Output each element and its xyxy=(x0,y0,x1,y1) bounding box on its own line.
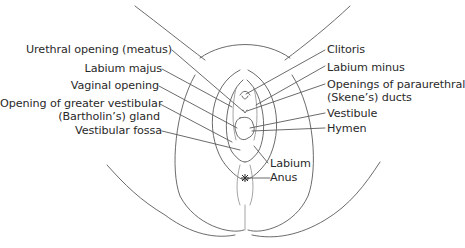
clitoral-hood xyxy=(240,91,250,95)
label-paraurethral-ducts-line1: Openings of paraurethral xyxy=(327,79,465,91)
mons-arc xyxy=(200,45,290,59)
label-labium: Labium xyxy=(270,158,311,170)
label-anus: Anus xyxy=(270,172,297,184)
label-labium-majus: Labium majus xyxy=(4,63,162,75)
label-greater-vestibular-gland-line2: (Bartholin’s) gland xyxy=(0,111,160,123)
anatomy-diagram: Urethral opening (meatus) Labium majus V… xyxy=(0,0,465,248)
diagram-drawing xyxy=(0,0,465,248)
label-hymen: Hymen xyxy=(327,123,366,135)
vaginal-opening-shape xyxy=(235,117,254,139)
label-urethral-opening: Urethral opening (meatus) xyxy=(4,44,172,56)
label-greater-vestibular-gland-line1: Opening of greater vestibular xyxy=(0,98,160,110)
label-clitoris: Clitoris xyxy=(327,44,365,56)
leader-bartholin xyxy=(160,104,232,142)
label-labium-minus: Labium minus xyxy=(327,62,405,74)
label-vaginal-opening: Vaginal opening xyxy=(4,80,159,92)
label-paraurethral-ducts-line2: (Skene’s) ducts xyxy=(327,92,412,104)
leader-hymen xyxy=(252,128,325,131)
anus-mark xyxy=(241,174,249,182)
right-thigh-curve xyxy=(248,75,313,231)
leader-labium-majus xyxy=(162,69,232,107)
labium-majus-left-outline xyxy=(212,70,244,180)
label-vestibular-fossa: Vestibular fossa xyxy=(4,125,162,137)
leader-vaginal xyxy=(159,86,237,128)
label-vestibule: Vestibule xyxy=(327,108,377,120)
leader-clitoris xyxy=(246,50,325,94)
leader-vestibule xyxy=(250,113,325,128)
left-buttock-curve xyxy=(107,165,235,236)
urethral-opening-shape xyxy=(243,110,247,113)
